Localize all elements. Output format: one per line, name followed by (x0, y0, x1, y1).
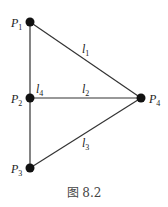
edge-l3 (30, 98, 141, 168)
node-p2 (26, 94, 35, 103)
node-p4 (137, 94, 146, 103)
node-p1 (26, 18, 35, 27)
label-l1: l1 (82, 42, 89, 58)
edge-l1 (30, 22, 141, 98)
label-l2: l2 (82, 82, 89, 98)
node-p3 (26, 164, 35, 173)
graph-diagram: P1 P2 P3 P4 l1 l2 l3 l4 图 8.2 (0, 0, 168, 207)
figure-caption: 图 8.2 (67, 186, 102, 200)
label-p2: P2 (10, 92, 22, 108)
label-p4: P4 (148, 92, 160, 108)
label-p1: P1 (10, 16, 22, 32)
label-p3: P3 (10, 162, 22, 178)
label-l3: l3 (82, 136, 89, 152)
label-l4: l4 (36, 82, 43, 98)
